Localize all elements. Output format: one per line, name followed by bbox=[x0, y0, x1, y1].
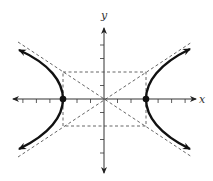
hyperbola-right-branch bbox=[146, 49, 190, 99]
hyperbola-right-branch-lower bbox=[146, 99, 190, 149]
vertex-right bbox=[143, 96, 150, 103]
y-axis-label: y bbox=[100, 9, 108, 22]
vertex-left bbox=[60, 96, 67, 103]
hyperbola-diagram: x y bbox=[0, 0, 213, 181]
x-axis-label: x bbox=[199, 93, 206, 106]
